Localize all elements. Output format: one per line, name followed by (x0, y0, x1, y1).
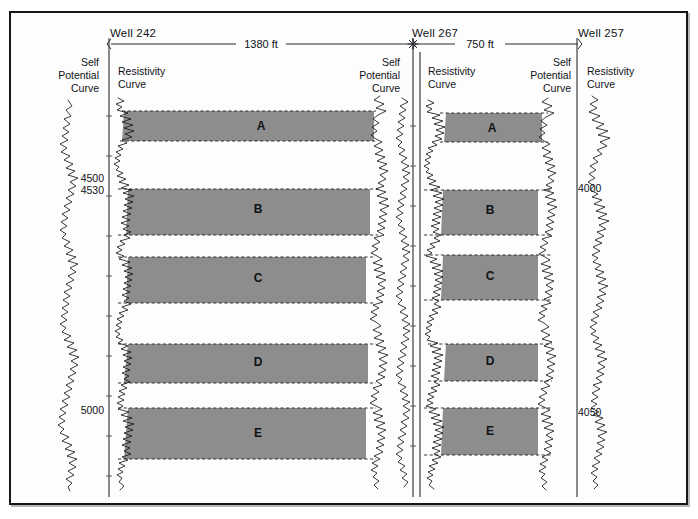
svg-text:Curve: Curve (372, 82, 400, 94)
log-curve-sp-267 (396, 98, 410, 487)
svg-text:Self: Self (553, 56, 571, 68)
depth-label-5000: 5000 (81, 404, 105, 416)
svg-text:Potential: Potential (530, 69, 571, 81)
svg-text:Self: Self (382, 56, 400, 68)
svg-text:Resistivity: Resistivity (428, 65, 476, 77)
log-curve-res-242-right (370, 96, 389, 489)
correlation-unit-E: E (118, 408, 376, 459)
track-label-res-267: Resistivity Curve (428, 65, 476, 90)
svg-text:Curve: Curve (118, 78, 146, 90)
correlation-unit-D: D (118, 344, 376, 383)
svg-text:Self: Self (81, 56, 99, 68)
distance-annotation-1380ft: 1380 ft (107, 38, 416, 50)
svg-text:Curve: Curve (543, 82, 571, 94)
well-title-257: Well 257 (578, 27, 624, 39)
unit-letter-B: B (254, 202, 263, 216)
log-curve-res-257 (588, 96, 610, 489)
track-label-res-242: Resistivity Curve (118, 65, 166, 90)
log-curve-sp-242 (58, 100, 79, 491)
svg-text:Resistivity: Resistivity (587, 65, 635, 77)
track-label-sp-242: Self Potential Curve (58, 56, 99, 94)
correlation-unit-B-267: B (424, 190, 552, 235)
log-curve-res-267-right (538, 98, 557, 490)
correlation-unit-D-267: D (428, 344, 552, 381)
depth-label-4530: 4530 (81, 184, 105, 196)
unit-letter-E-267: E (486, 424, 494, 438)
depth-label-4000: 4000 (578, 182, 602, 194)
svg-text:Curve: Curve (587, 78, 615, 90)
unit-letter-D-267: D (486, 354, 495, 368)
track-label-sp-267-right: Self Potential Curve (530, 56, 571, 94)
distance-label-1380ft: 1380 ft (244, 38, 278, 50)
unit-letter-C-267: C (486, 269, 495, 283)
correlation-unit-B: B (118, 189, 378, 235)
depth-label-4500: 4500 (81, 172, 105, 184)
cross-section-diagram: Well 242 Well 267 Well 257 1380 ft 750 f… (0, 0, 698, 519)
unit-letter-E: E (254, 426, 262, 440)
figure-canvas: Well 242 Well 267 Well 257 1380 ft 750 f… (0, 0, 698, 519)
distance-annotation-750ft: 750 ft (408, 38, 583, 50)
correlation-unit-A: A (120, 111, 376, 141)
track-label-res-257: Resistivity Curve (587, 65, 635, 90)
svg-text:Curve: Curve (71, 82, 99, 94)
unit-letter-A-267: A (488, 121, 497, 135)
correlation-unit-A-267: A (440, 113, 548, 142)
correlation-unit-C: C (118, 257, 374, 303)
well-title-267: Well 267 (412, 27, 458, 39)
unit-letter-B-267: B (486, 203, 495, 217)
well-title-242: Well 242 (110, 27, 156, 39)
svg-text:Curve: Curve (428, 78, 456, 90)
svg-text:Potential: Potential (359, 69, 400, 81)
correlation-unit-C-267: C (424, 255, 552, 300)
unit-letter-C: C (254, 271, 263, 285)
distance-label-750ft: 750 ft (466, 38, 494, 50)
svg-text:Potential: Potential (58, 69, 99, 81)
unit-letter-A: A (257, 119, 266, 133)
track-label-sp-242-right: Self Potential Curve (359, 56, 400, 94)
unit-letter-D: D (254, 355, 263, 369)
svg-text:Resistivity: Resistivity (118, 65, 166, 77)
correlation-unit-E-267: E (424, 408, 552, 455)
